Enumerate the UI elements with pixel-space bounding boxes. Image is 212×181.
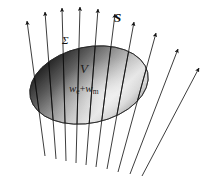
surface-sigma-label: Σ [62, 35, 69, 46]
poynting-arrow [142, 68, 199, 176]
energy-density-subscript-e: e [76, 87, 79, 96]
energy-density-w-magnetic: w [85, 82, 92, 94]
volume-label: V [80, 62, 88, 75]
energy-density-label: we+wm [69, 83, 99, 94]
poynting-vector-label: S [114, 11, 121, 24]
energy-density-subscript-m: m [93, 87, 99, 96]
figure-canvas [0, 0, 212, 181]
poynting-flux-figure: S Σ V we+wm [0, 0, 212, 181]
